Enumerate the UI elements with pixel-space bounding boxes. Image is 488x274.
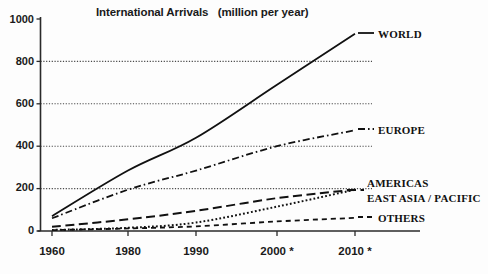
chart-canvas: International Arrivals (million per year… [0,0,488,274]
gridlines [41,61,373,188]
axis-lines [38,17,421,231]
axis-ticks [37,19,356,236]
chart-plot-area [0,0,488,274]
series-line-others [52,218,355,230]
legend-line-samples [347,33,374,217]
data-series-group [52,34,355,230]
series-line-europe [52,130,355,218]
